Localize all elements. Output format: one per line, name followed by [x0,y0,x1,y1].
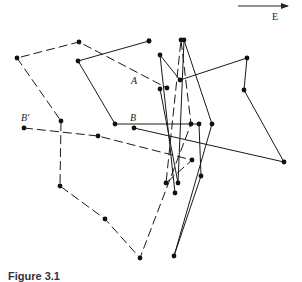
path-node [138,256,143,261]
path-node [182,38,187,43]
path-node [190,158,195,163]
label-b: B [130,112,136,123]
path-node [76,59,81,64]
path-node [59,119,64,124]
path-node [132,126,137,131]
path-node [282,160,287,165]
path-node [176,181,181,186]
label-b-prime: B′ [21,112,29,123]
path-node [245,56,250,61]
path-node [165,86,170,91]
path-node [15,56,20,61]
path-node [199,174,204,179]
path-node [77,40,82,45]
path-node [173,191,178,196]
path-node [210,122,215,127]
path-node [96,134,101,139]
path-node [164,181,169,186]
dashed-path [17,40,192,258]
path-node [242,88,247,93]
path-node [178,78,183,83]
figure-caption: Figure 3.1 [8,270,60,282]
path-node [197,122,202,127]
path-node [113,122,118,127]
path-node [147,39,152,44]
path-node [58,184,63,189]
path-node [172,254,177,259]
path-node [158,53,163,58]
path-node [158,87,163,92]
path-node [103,217,108,222]
east-label: E [272,11,278,22]
path-node [22,126,27,131]
label-a: A [131,75,137,86]
